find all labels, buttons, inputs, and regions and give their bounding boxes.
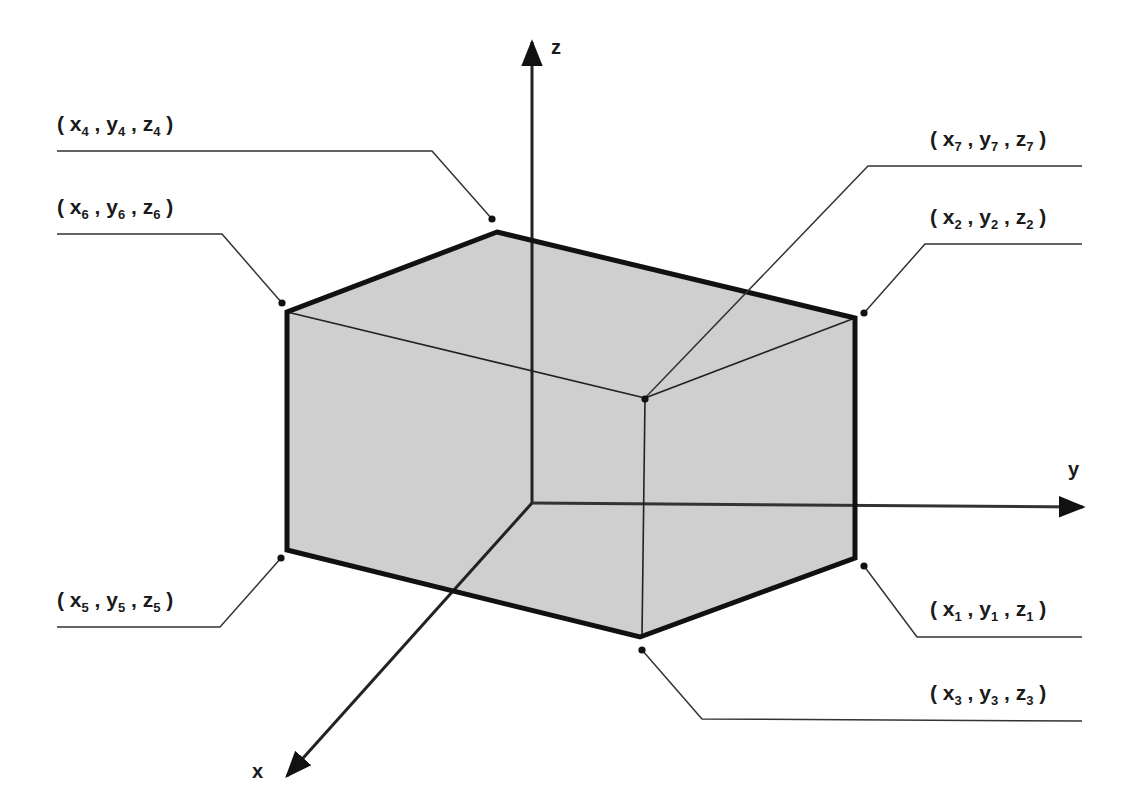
vertex-dot-6 [278, 299, 285, 306]
vertex-label-7: ( x7 , y7 , z7 ) [930, 127, 1046, 154]
x-axis-label: x [252, 760, 263, 783]
vertex-label-3: ( x3 , y3 , z3 ) [930, 681, 1046, 708]
vertex-label-1: ( x1 , y1 , z1 ) [930, 597, 1046, 624]
vertex-dot-3 [638, 646, 645, 653]
y-axis-label: y [1068, 458, 1079, 481]
vertex-dot-5 [277, 554, 284, 561]
vertex-label-4: ( x4 , y4 , z4 ) [57, 112, 173, 139]
vertex-label-6: ( x6 , y6 , z6 ) [57, 195, 173, 222]
vertex-label-5: ( x5 , y5 , z5 ) [57, 588, 173, 615]
box-fill [287, 232, 855, 637]
vertex-label-2: ( x2 , y2 , z2 ) [930, 205, 1046, 232]
vertex-dot-7 [641, 395, 648, 402]
leader-v6 [57, 234, 282, 303]
vertex-dot-4 [488, 215, 495, 222]
vertex-dot-1 [860, 562, 867, 569]
vertex-dot-2 [860, 309, 867, 316]
z-axis-label: z [551, 36, 561, 59]
leader-v2 [864, 244, 1082, 313]
